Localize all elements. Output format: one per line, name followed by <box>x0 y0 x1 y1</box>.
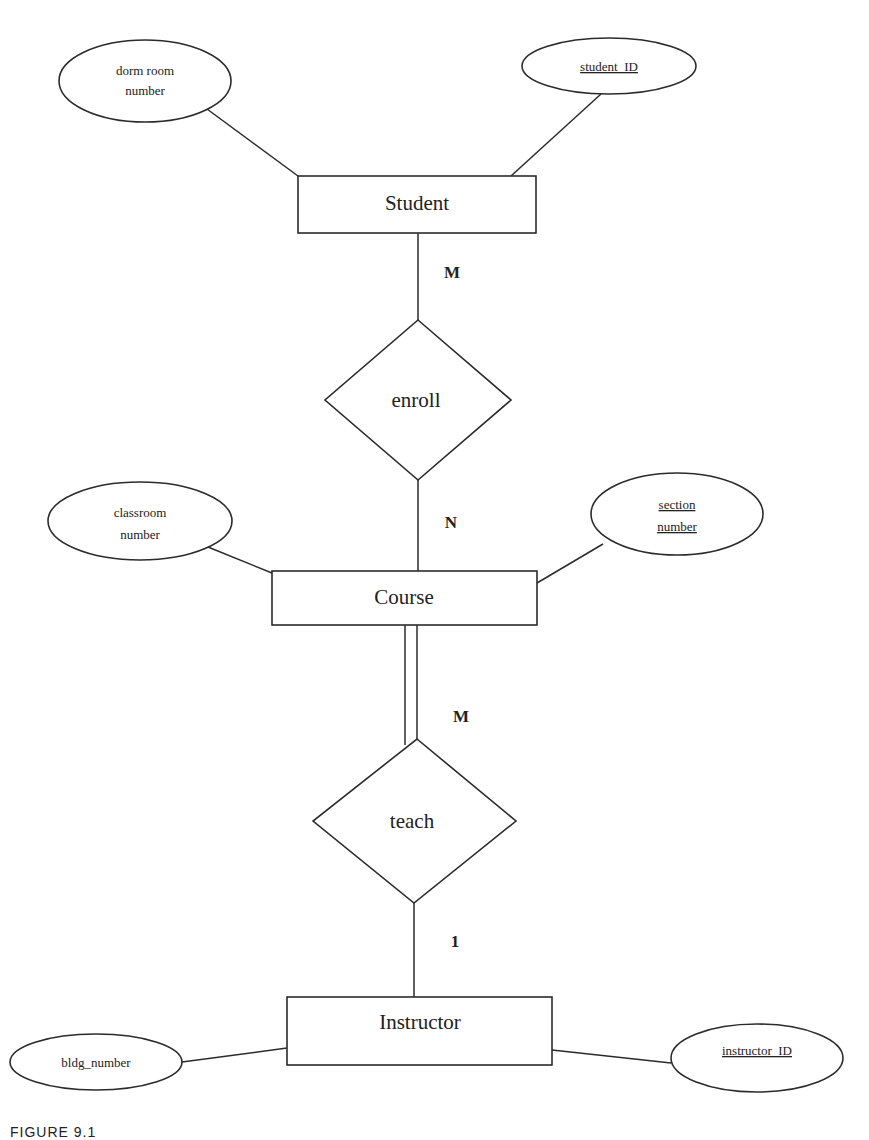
attribute-student-id: student_ID <box>522 38 696 94</box>
attribute-dorm-room-number: dorm room number <box>59 40 231 122</box>
attribute-classroom-number: classroom number <box>48 482 232 560</box>
relationship-label: enroll <box>392 388 441 412</box>
cardinality-teach-instructor: 1 <box>451 932 460 951</box>
entity-course: Course <box>272 571 537 625</box>
cardinality-course-teach: M <box>453 707 469 726</box>
relationship-teach: teach <box>313 739 516 903</box>
key-attribute-label: instructor_ID <box>722 1043 792 1058</box>
attribute-label: number <box>120 527 160 542</box>
attribute-label: classroom <box>114 505 167 520</box>
entity-instructor: Instructor <box>287 997 552 1065</box>
connector-instructorid-instructor <box>552 1050 671 1063</box>
key-attribute-label: number <box>657 519 697 534</box>
connector-section-course <box>537 544 603 583</box>
connector-classroom-course <box>208 547 272 573</box>
connector-studentid-student <box>511 94 601 176</box>
attribute-label: bldg_number <box>61 1055 131 1070</box>
connector-bldg-instructor <box>182 1048 287 1062</box>
connector-dorm-student <box>207 109 298 176</box>
attribute-label: number <box>125 83 165 98</box>
entity-label: Course <box>374 585 434 609</box>
figure-caption: FIGURE 9.1 <box>10 1124 96 1140</box>
attribute-label: dorm room <box>116 63 174 78</box>
attribute-section-number: section number <box>591 473 763 555</box>
cardinality-student-enroll: M <box>444 263 460 282</box>
entity-label: Student <box>385 191 449 215</box>
attribute-bldg-number: bldg_number <box>10 1034 182 1090</box>
entity-label: Instructor <box>379 1010 461 1034</box>
key-attribute-label: section <box>659 497 696 512</box>
entity-student: Student <box>298 176 536 233</box>
attribute-instructor-id: instructor_ID <box>671 1024 843 1092</box>
relationship-label: teach <box>390 809 435 833</box>
relationship-enroll: enroll <box>325 320 511 480</box>
cardinality-enroll-course: N <box>445 513 458 532</box>
key-attribute-label: student_ID <box>580 59 638 74</box>
